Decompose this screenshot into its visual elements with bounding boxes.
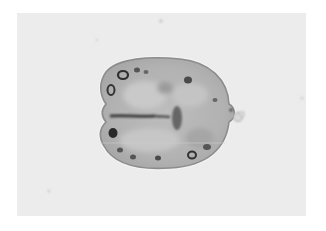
specimen-cell [0,0,326,231]
